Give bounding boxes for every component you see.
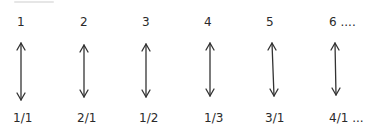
rational-1: 1/1	[13, 111, 32, 125]
rational-2: 2/1	[77, 111, 96, 125]
double-arrow-icon	[80, 45, 88, 97]
rational-5: 3/1	[265, 111, 284, 125]
rational-6: 4/1 ...	[329, 111, 364, 125]
rational-3: 1/2	[139, 111, 158, 125]
rational-4: 1/3	[204, 111, 223, 125]
double-arrow-icon	[206, 43, 214, 96]
arrows-layer	[0, 0, 376, 135]
double-arrow-icon	[17, 43, 25, 100]
double-arrow-icon	[142, 44, 150, 97]
double-arrow-icon	[331, 43, 340, 95]
double-arrow-icon	[268, 43, 278, 96]
